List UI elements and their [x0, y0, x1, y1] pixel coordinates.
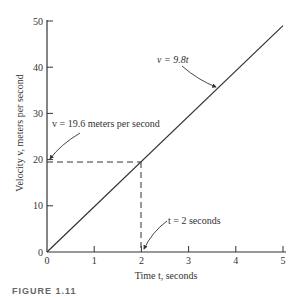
velocity-arrow	[50, 133, 80, 159]
x-tick-label: 5	[281, 255, 286, 266]
y-tick-label: 50	[33, 16, 43, 27]
equation-annotation: v = 9.8t	[157, 54, 189, 65]
y-ticks: 01020304050	[33, 16, 53, 258]
x-ticks: 012345	[45, 246, 286, 266]
y-tick-label: 40	[33, 62, 43, 73]
y-axis-label: Velocity v, meters per second	[14, 74, 25, 191]
y-tick-label: 0	[38, 247, 43, 258]
figure-caption: FIGURE 1.11	[12, 286, 77, 296]
velocity-time-chart: 01020304050 012345 v = 9.8t v = 19.6 met…	[0, 0, 304, 297]
time-annotation: t = 2 seconds	[168, 215, 221, 226]
equation-arrow	[182, 66, 216, 87]
x-tick-label: 3	[186, 255, 191, 266]
y-tick-label: 10	[33, 200, 43, 211]
y-tick-label: 20	[33, 154, 43, 165]
x-tick-label: 4	[233, 255, 238, 266]
x-tick-label: 1	[92, 255, 97, 266]
velocity-annotation: v = 19.6 meters per second	[52, 118, 160, 129]
y-tick-label: 30	[33, 108, 43, 119]
time-arrow	[144, 221, 167, 249]
x-tick-label: 0	[45, 255, 50, 266]
x-axis-label: Time t, seconds	[135, 270, 198, 281]
x-tick-label: 2	[139, 255, 144, 266]
